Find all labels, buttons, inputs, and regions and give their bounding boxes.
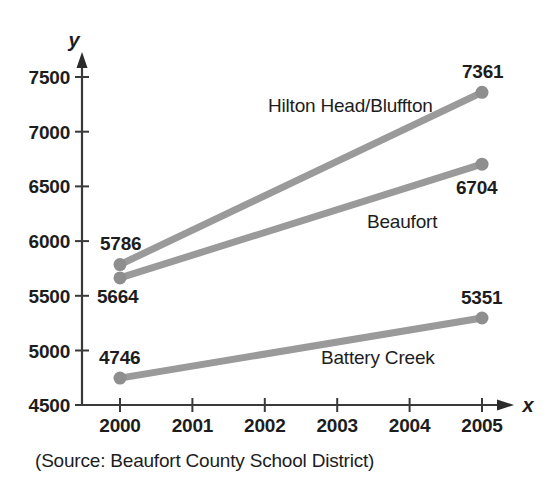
chart-figure: y 7500 7000 6500 6000 5500 5000 4500 x — [0, 0, 551, 483]
y-tick-label-5500: 5500 — [29, 286, 70, 307]
x-tick-label-2005: 2005 — [461, 415, 503, 436]
series-name-battery: Battery Creek — [321, 347, 435, 368]
y-axis-label: y — [67, 29, 80, 51]
series-name-beaufort: Beaufort — [367, 211, 438, 232]
data-label-hilton-2005: 7361 — [462, 61, 504, 82]
data-label-battery-2005: 5351 — [461, 287, 503, 308]
y-tick-label-7500: 7500 — [29, 67, 70, 88]
data-point-beaufort-2000 — [114, 271, 127, 284]
x-tick-label-2004: 2004 — [389, 415, 431, 436]
y-tick-label-6000: 6000 — [29, 231, 70, 252]
x-tick-label-2002: 2002 — [244, 415, 285, 436]
x-axis-label: x — [521, 394, 534, 416]
source-note: (Source: Beaufort County School District… — [35, 450, 374, 471]
series-name-hilton: Hilton Head/Bluffton — [268, 95, 433, 116]
x-tick-label-2003: 2003 — [316, 415, 357, 436]
data-point-hilton-2005 — [476, 86, 489, 99]
data-point-battery-2000 — [114, 372, 127, 385]
y-tick-label-4500: 4500 — [29, 395, 70, 416]
line-chart: y 7500 7000 6500 6000 5500 5000 4500 x — [0, 0, 551, 483]
data-point-beaufort-2005 — [476, 158, 489, 171]
x-tick-label-2001: 2001 — [172, 415, 214, 436]
data-point-battery-2005 — [476, 312, 489, 325]
data-label-beaufort-2000: 5664 — [97, 286, 139, 307]
data-label-battery-2000: 4746 — [99, 347, 140, 368]
y-tick-label-5000: 5000 — [29, 341, 70, 362]
data-label-hilton-2000: 5786 — [100, 233, 141, 254]
x-tick-label-2000: 2000 — [99, 415, 140, 436]
y-tick-label-7000: 7000 — [29, 122, 70, 143]
data-label-beaufort-2005: 6704 — [456, 177, 498, 198]
data-point-hilton-2000 — [114, 258, 127, 271]
y-tick-label-6500: 6500 — [29, 176, 70, 197]
